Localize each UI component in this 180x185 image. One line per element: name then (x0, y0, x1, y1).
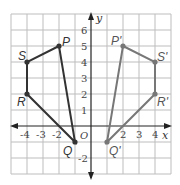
label-P: P (62, 35, 70, 49)
x-tick: -2 (52, 129, 62, 140)
label-R: R (17, 95, 26, 109)
x-tick: -4 (20, 129, 30, 140)
point-Q (72, 139, 77, 144)
y-axis-label: y (95, 12, 103, 25)
y-tick: 1 (81, 105, 87, 116)
label-Q-prime: Q' (109, 144, 121, 158)
x-axis-label: x (162, 129, 169, 142)
label-P-prime: P' (111, 34, 122, 48)
y-tick: 4 (81, 57, 87, 68)
point-P (56, 43, 61, 48)
coordinate-plane-figure: y x -4 -3 -2 2 3 4 6 5 4 3 2 1 -2 O P S … (0, 0, 180, 185)
origin-label: O (80, 130, 88, 141)
y-axis-up-arrow-icon (88, 12, 94, 20)
x-tick: 2 (120, 129, 126, 140)
y-tick: 5 (81, 41, 87, 52)
label-R-prime: R' (157, 95, 169, 109)
label-S-prime: S' (157, 50, 168, 64)
x-tick: 4 (152, 129, 158, 140)
x-tick: 3 (136, 129, 142, 140)
x-tick-labels: -4 -3 -2 2 3 4 (20, 129, 158, 140)
label-Q: Q (63, 144, 72, 158)
y-tick: 6 (81, 25, 87, 36)
y-tick: 2 (81, 89, 87, 100)
graph-svg: y x -4 -3 -2 2 3 4 6 5 4 3 2 1 -2 O P S … (0, 0, 180, 185)
y-tick: -2 (78, 153, 88, 164)
x-tick: -3 (36, 129, 46, 140)
y-axis-down-arrow-icon (88, 172, 94, 180)
y-tick: 3 (81, 73, 87, 84)
label-S: S (18, 49, 26, 63)
